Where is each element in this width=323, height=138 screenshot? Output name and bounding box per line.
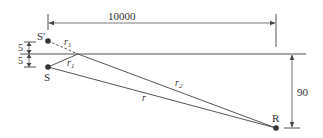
reflection-diagram: 10000 5 5 S' S R r1 r1 r2 r 90 [0,0,323,138]
label-source: S [44,71,50,83]
label-receiver: R [272,112,280,124]
source-point [45,64,51,70]
label-offset-bottom: 5 [18,55,23,66]
label-offset-top: 5 [18,42,23,53]
label-distance-vertical: 90 [297,86,309,98]
label-ray-incident: r1 [67,57,74,70]
ray-direct [48,67,276,128]
offset-arrow-1 [27,42,32,46]
offset-arrow-3 [27,54,32,58]
image-source-point [45,38,51,44]
receiver-point [273,125,279,131]
label-ray-reflected: r2 [175,77,183,90]
offset-arrow-4 [27,63,32,67]
ray-image-dashed [48,41,78,54]
label-ray-image: r1 [64,36,71,49]
ray-reflected [78,54,276,128]
label-image-source: S' [37,30,45,42]
label-distance-horizontal: 10000 [108,10,136,22]
offset-arrow-2 [27,50,32,54]
label-ray-direct: r [142,92,146,103]
